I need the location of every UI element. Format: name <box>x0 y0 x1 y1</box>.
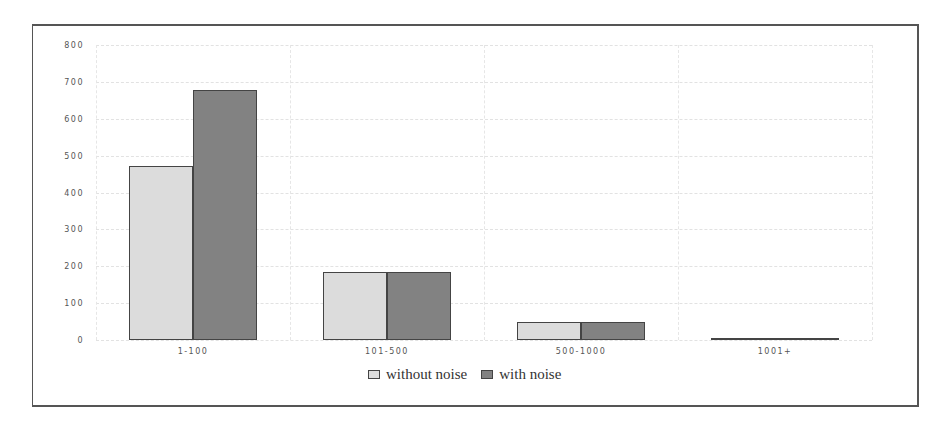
legend-swatch-with-noise <box>481 370 493 379</box>
legend-label: without noise <box>386 366 467 383</box>
bar-without-noise-500-1000 <box>517 322 581 340</box>
y-tick-label: 800 <box>40 41 84 50</box>
bar-with-noise-1001+ <box>775 338 839 340</box>
bar-with-noise-101-500 <box>387 272 451 340</box>
category-divider <box>96 45 97 340</box>
gridline <box>96 340 872 341</box>
y-tick-label: 200 <box>40 262 84 271</box>
category-divider <box>678 45 679 340</box>
y-tick-label: 500 <box>40 151 84 160</box>
category-divider <box>290 45 291 340</box>
category-divider <box>872 45 873 340</box>
category-divider <box>484 45 485 340</box>
legend: without noise with noise <box>368 366 575 383</box>
bar-with-noise-1-100 <box>193 90 257 340</box>
plot-area <box>96 45 872 340</box>
y-tick-label: 300 <box>40 225 84 234</box>
legend-label: with noise <box>499 366 561 383</box>
x-tick-label: 1-100 <box>133 347 253 356</box>
bar-without-noise-1001+ <box>711 338 775 340</box>
y-tick-label: 0 <box>40 336 84 345</box>
x-tick-label: 500-1000 <box>521 347 641 356</box>
bar-with-noise-500-1000 <box>581 322 645 340</box>
y-tick-label: 700 <box>40 77 84 86</box>
x-tick-label: 1001+ <box>715 347 835 356</box>
y-tick-label: 600 <box>40 114 84 123</box>
bar-without-noise-1-100 <box>129 166 193 340</box>
legend-item-with-noise: with noise <box>481 366 561 383</box>
x-tick-label: 101-500 <box>327 347 447 356</box>
legend-item-without-noise: without noise <box>368 366 467 383</box>
y-tick-label: 400 <box>40 188 84 197</box>
y-tick-label: 100 <box>40 299 84 308</box>
legend-swatch-without-noise <box>368 370 380 379</box>
bar-without-noise-101-500 <box>323 272 387 340</box>
